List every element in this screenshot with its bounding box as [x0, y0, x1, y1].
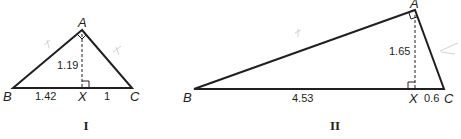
altitude-length-I: 1.19 — [57, 59, 78, 71]
figure-caption-I: I — [83, 118, 88, 133]
pencil-mark — [440, 43, 458, 54]
segment-XC-length-II: 0.6 — [424, 92, 439, 104]
segment-XC-length-I: 1 — [104, 90, 110, 102]
triangle-I: A B C X 1.19 1.42 1 I — [3, 15, 140, 133]
segment-BX-length-I: 1.42 — [35, 90, 56, 102]
vertex-label-B-II: B — [183, 90, 192, 105]
vertex-label-B-I: B — [3, 89, 12, 104]
right-angle-mark-X-I — [82, 81, 89, 88]
right-angle-mark-X-II — [408, 82, 415, 89]
pencil-mark — [44, 40, 50, 48]
vertex-label-X-II: X — [408, 91, 419, 106]
vertex-label-C-I: C — [130, 89, 140, 104]
pencil-mark — [295, 29, 301, 37]
figure-caption-II: II — [330, 118, 340, 133]
diagram-canvas: A B C X 1.19 1.42 1 I A B C X 1.65 4.53 … — [0, 0, 461, 139]
vertex-label-C-II: C — [444, 91, 454, 106]
vertex-label-A-I: A — [77, 15, 87, 30]
vertex-label-X-I: X — [77, 89, 88, 104]
pencil-mark — [113, 46, 121, 55]
vertex-label-A-II: A — [409, 0, 419, 11]
altitude-length-II: 1.65 — [389, 45, 410, 57]
segment-BX-length-II: 4.53 — [292, 92, 313, 104]
triangle-II: A B C X 1.65 4.53 0.6 II — [183, 0, 458, 133]
